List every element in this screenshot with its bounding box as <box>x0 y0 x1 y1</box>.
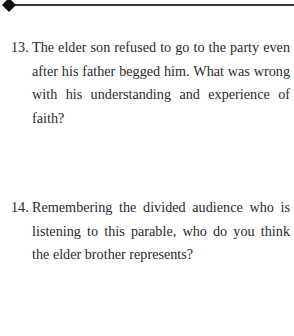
question-text: Remembering the divided audience who is … <box>11 196 290 267</box>
question-13: 13. The elder son refused to go to the p… <box>11 36 290 130</box>
question-text: The elder son refused to go to the party… <box>11 36 290 130</box>
question-number: 13. <box>11 36 29 60</box>
diamond-icon <box>2 0 16 12</box>
question-14: 14. Remembering the divided audience who… <box>11 196 290 267</box>
header-rule <box>8 4 294 6</box>
question-number: 14. <box>11 196 29 220</box>
